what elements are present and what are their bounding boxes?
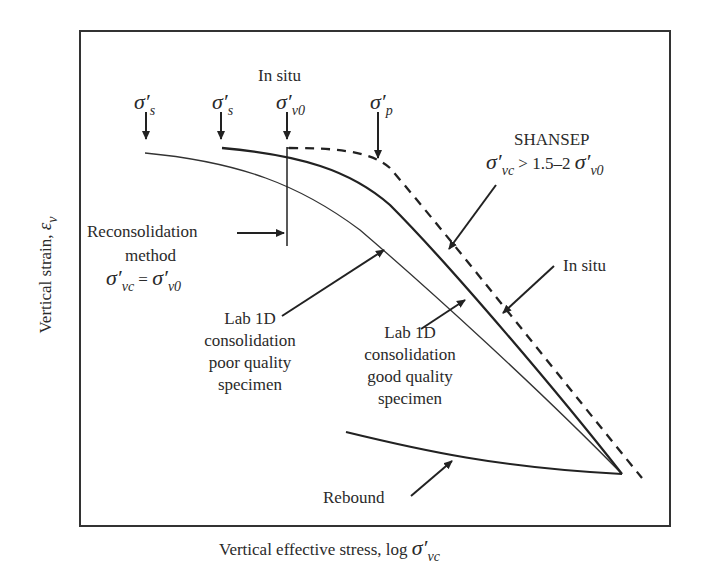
label-sigma-s-good: σ′s <box>212 92 233 121</box>
arrow-shansep <box>449 185 496 249</box>
label-poor-quality: Lab 1Dconsolidationpoor qualityspecimen <box>195 308 305 396</box>
label-shansep-eq: σ′vc > 1.5–2 σ′v0 <box>486 152 604 181</box>
arrow-rebound <box>411 461 452 496</box>
label-sigma-v0: σ′v0 <box>276 92 305 121</box>
rebound-curve <box>346 432 622 474</box>
x-axis-label: Vertical effective stress, log σ′vc <box>219 538 440 567</box>
in-situ-curve <box>289 148 642 478</box>
label-sigma-s-poor: σ′s <box>134 92 155 121</box>
label-method: method <box>125 246 176 266</box>
label-shansep: SHANSEP <box>514 130 590 150</box>
label-good-quality: Lab 1Dconsolidationgood qualityspecimen <box>355 322 465 410</box>
y-axis-label: Vertical strain, εv <box>34 216 61 333</box>
label-reconsolidation: Reconsolidation <box>87 222 197 242</box>
label-rebound: Rebound <box>323 488 384 508</box>
label-in-situ-right: In situ <box>563 256 606 276</box>
arrow-poor <box>282 250 384 316</box>
arrow-in-situ <box>503 266 554 313</box>
label-in-situ-top: In situ <box>258 66 301 86</box>
label-recon-eq: σ′vc = σ′v0 <box>106 268 181 297</box>
label-sigma-p: σ′p <box>370 92 393 121</box>
